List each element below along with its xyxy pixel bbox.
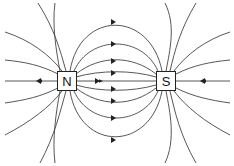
north-pole-label: N: [62, 74, 71, 89]
south-pole: S: [156, 71, 176, 91]
field-lines: [0, 0, 234, 166]
south-pole-label: S: [162, 74, 171, 89]
north-pole: N: [57, 71, 77, 91]
